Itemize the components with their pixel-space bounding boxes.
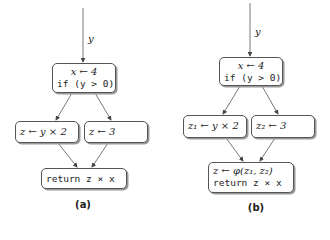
node-a-right: z ← 3 (84, 121, 148, 143)
node-a-entry-line1: x ← 4 (57, 66, 111, 78)
edge-b-entry-left (223, 86, 240, 114)
node-a-left: z ← y × 2 (15, 121, 79, 143)
edge-a-right-exit (92, 143, 108, 167)
node-b-entry-line2: if (y > 0) (224, 72, 278, 84)
edge-a-entry-left (56, 93, 72, 120)
edge-b-entry-right (262, 86, 278, 114)
node-b-exit: z ← φ(z₁, z₂) return z × x (208, 162, 294, 193)
edge-label-y-a: y (88, 33, 94, 44)
node-a-entry: x ← 4 if (y > 0) (52, 63, 116, 93)
node-a-entry-line2: if (y > 0) (57, 78, 111, 90)
node-b-entry-line1: x ← 4 (224, 60, 278, 72)
node-b-left: z₁ ← y × 2 (183, 115, 247, 138)
node-b-exit-line1: z ← φ(z₁, z₂) (213, 165, 289, 177)
node-b-entry: x ← 4 if (y > 0) (219, 57, 283, 86)
node-a-exit: return z × x (41, 168, 127, 189)
caption-a: (a) (75, 199, 91, 210)
edge-a-left-exit (58, 143, 77, 167)
node-b-right: z₂ ← 3 (251, 115, 315, 138)
caption-b: (b) (248, 202, 264, 213)
edge-label-y-b: y (255, 26, 261, 37)
edge-b-right-exit (260, 138, 275, 161)
node-b-exit-line2: return z × x (213, 177, 289, 189)
edge-a-entry-right (95, 93, 111, 120)
edge-b-left-exit (226, 138, 243, 161)
